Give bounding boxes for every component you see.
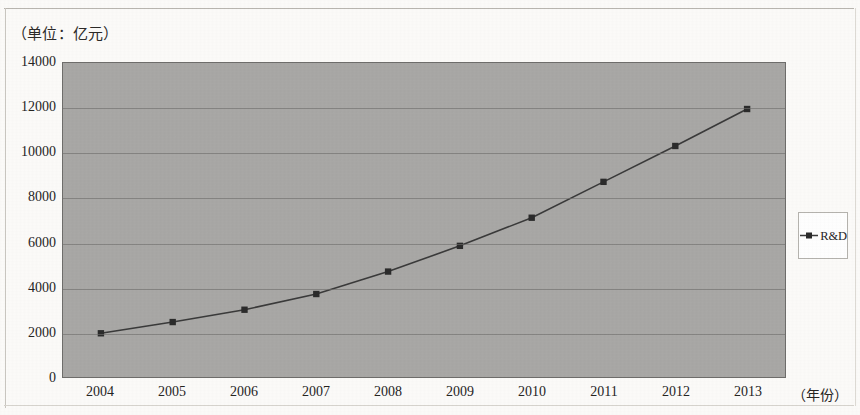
gridline bbox=[63, 153, 785, 154]
gridline bbox=[63, 198, 785, 199]
x-tick-label: 2007 bbox=[302, 384, 330, 400]
gridline bbox=[63, 244, 785, 245]
x-tick-label: 2008 bbox=[374, 384, 402, 400]
gridline bbox=[63, 289, 785, 290]
scan-frame-top-border bbox=[4, 8, 854, 9]
x-tick-label: 2011 bbox=[590, 384, 617, 400]
x-tick-label: 2004 bbox=[86, 384, 114, 400]
y-tick-label: 10000 bbox=[0, 144, 56, 160]
y-tick-label: 0 bbox=[0, 370, 56, 386]
chart-legend: R&D bbox=[798, 212, 848, 259]
gridline bbox=[63, 334, 785, 335]
x-tick-label: 2013 bbox=[734, 384, 762, 400]
data-point-marker bbox=[529, 215, 535, 221]
series-r-and-d bbox=[63, 63, 785, 377]
legend-label-r-and-d: R&D bbox=[820, 228, 847, 243]
y-tick-label: 6000 bbox=[0, 235, 56, 251]
plot-area bbox=[62, 62, 786, 378]
data-point-marker bbox=[385, 268, 391, 274]
series-line bbox=[101, 109, 747, 333]
data-point-marker bbox=[600, 179, 606, 185]
data-point-marker bbox=[170, 319, 176, 325]
y-tick-label: 4000 bbox=[0, 280, 56, 296]
x-axis-title: （年份） bbox=[792, 384, 848, 404]
y-tick-label: 14000 bbox=[0, 54, 56, 70]
y-tick-label: 2000 bbox=[0, 325, 56, 341]
data-point-marker bbox=[672, 143, 678, 149]
legend-square-line-marker-icon bbox=[799, 230, 819, 242]
gridline bbox=[63, 108, 785, 109]
data-point-marker bbox=[241, 307, 247, 313]
data-point-marker bbox=[744, 106, 750, 112]
x-tick-label: 2006 bbox=[230, 384, 258, 400]
data-point-marker bbox=[313, 291, 319, 297]
y-axis: 02000400060008000100001200014000 bbox=[0, 0, 56, 415]
chart-screenshot: （单位：亿元） 02000400060008000100001200014000… bbox=[0, 0, 860, 415]
x-tick-label: 2009 bbox=[446, 384, 474, 400]
y-tick-label: 8000 bbox=[0, 189, 56, 205]
x-axis: 2004200520062007200820092010201120122013 bbox=[62, 384, 786, 406]
y-tick-label: 12000 bbox=[0, 99, 56, 115]
x-tick-label: 2005 bbox=[158, 384, 186, 400]
x-tick-label: 2010 bbox=[518, 384, 546, 400]
legend-entry-r-and-d: R&D bbox=[799, 228, 847, 243]
x-tick-label: 2012 bbox=[662, 384, 690, 400]
scan-frame-right-border bbox=[855, 8, 856, 406]
